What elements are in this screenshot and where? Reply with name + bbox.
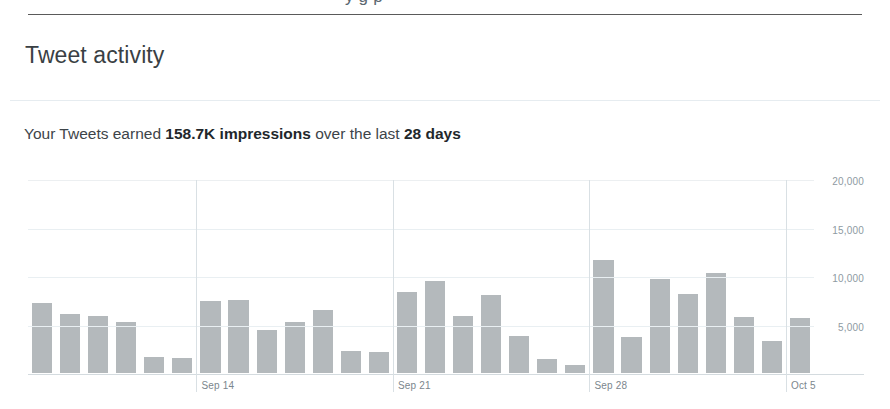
bar[interactable] bbox=[369, 352, 389, 373]
bar[interactable] bbox=[481, 295, 501, 373]
bar[interactable] bbox=[116, 322, 136, 373]
x-axis-line bbox=[28, 374, 864, 375]
bar[interactable] bbox=[397, 292, 417, 373]
x-axis-tick-label: Sep 14 bbox=[201, 380, 234, 391]
week-separator-line bbox=[196, 180, 197, 392]
impressions-bar-chart: 20,00015,00010,0005,000 Sep 14Sep 21Sep … bbox=[28, 180, 864, 375]
summary-middle: over the last bbox=[311, 125, 404, 142]
bar[interactable] bbox=[144, 357, 164, 373]
summary-period: 28 days bbox=[404, 125, 461, 142]
bar[interactable] bbox=[678, 294, 698, 373]
bar[interactable] bbox=[509, 336, 529, 373]
page-title: Tweet activity bbox=[25, 42, 164, 69]
bar[interactable] bbox=[228, 300, 248, 373]
bar[interactable] bbox=[706, 273, 726, 373]
top-cutoff-strip: y g p bbox=[0, 0, 890, 14]
bar[interactable] bbox=[762, 341, 782, 373]
summary-impressions: 158.7K impressions bbox=[165, 125, 311, 142]
week-separator-line bbox=[589, 180, 590, 392]
bar[interactable] bbox=[285, 322, 305, 373]
bar[interactable] bbox=[621, 337, 641, 373]
gridline bbox=[28, 180, 814, 181]
tweet-activity-page: { "top_partial_text": "y g p", "card": {… bbox=[0, 0, 890, 409]
y-axis-tick-label: 20,000 bbox=[816, 176, 864, 187]
bar[interactable] bbox=[60, 314, 80, 373]
bar[interactable] bbox=[313, 310, 333, 373]
header-divider bbox=[10, 100, 880, 101]
top-divider bbox=[28, 14, 862, 15]
week-separator-line bbox=[786, 180, 787, 392]
week-separator-line bbox=[393, 180, 394, 392]
y-axis-tick-label: 10,000 bbox=[816, 273, 864, 284]
top-cutoff-text: y g p bbox=[345, 0, 383, 7]
bar[interactable] bbox=[32, 303, 52, 373]
bar[interactable] bbox=[565, 365, 585, 373]
bar[interactable] bbox=[257, 330, 277, 373]
chart-plot-area bbox=[28, 180, 814, 375]
bar[interactable] bbox=[425, 281, 445, 373]
y-axis-tick-label: 15,000 bbox=[816, 224, 864, 235]
gridline bbox=[28, 326, 814, 327]
summary-prefix: Your Tweets earned bbox=[24, 125, 165, 142]
bar[interactable] bbox=[200, 301, 220, 373]
gridline bbox=[28, 229, 814, 230]
y-axis-tick-label: 5,000 bbox=[816, 321, 864, 332]
impressions-summary: Your Tweets earned 158.7K impressions ov… bbox=[24, 125, 461, 143]
x-axis-tick-label: Oct 5 bbox=[791, 380, 816, 391]
x-axis-tick-label: Sep 21 bbox=[398, 380, 431, 391]
bar[interactable] bbox=[341, 351, 361, 373]
x-axis-tick-label: Sep 28 bbox=[594, 380, 627, 391]
bar[interactable] bbox=[172, 358, 192, 373]
gridline bbox=[28, 277, 814, 278]
bar[interactable] bbox=[537, 359, 557, 373]
